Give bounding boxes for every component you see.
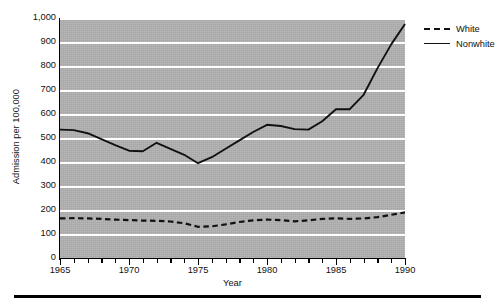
x-axis-tick (281, 258, 282, 263)
series-lines (60, 18, 405, 258)
x-axis-tick (170, 258, 171, 263)
y-axis-tick-label: 500 (2, 133, 56, 142)
x-axis-tick (198, 258, 199, 265)
x-axis-tick (364, 258, 365, 263)
chart-figure: 01002003004005006007008009001,000 196519… (0, 0, 495, 305)
x-axis-tick (115, 258, 116, 263)
series-line-nonwhite (60, 24, 405, 163)
x-axis-line (59, 258, 406, 259)
y-axis-tick-label: 300 (2, 181, 56, 190)
y-axis-tick-label: 0 (2, 253, 56, 262)
x-axis-tick (101, 258, 102, 263)
x-axis-tick-label: 1990 (383, 266, 427, 275)
x-axis-tick-label: 1965 (38, 266, 82, 275)
legend-swatch-solid-icon (424, 43, 450, 44)
x-axis-tick-label: 1985 (314, 266, 358, 275)
y-axis-tick-label: 1,000 (2, 13, 56, 22)
legend-label-white: White (456, 22, 480, 37)
x-axis-tick (350, 258, 351, 263)
x-axis-title: Year (0, 279, 465, 288)
x-axis-tick (226, 258, 227, 263)
y-axis-line (59, 18, 60, 260)
y-axis-tick-label: 900 (2, 37, 56, 46)
legend-item-nonwhite: Nonwhite (424, 37, 494, 52)
x-axis-tick (253, 258, 254, 263)
y-axis-tick-label: 400 (2, 157, 56, 166)
series-line-white (60, 212, 405, 226)
chart-legend: White Nonwhite (424, 22, 494, 52)
y-axis-tick-label: 100 (2, 229, 56, 238)
x-axis-tick (60, 258, 61, 265)
x-axis-tick (377, 258, 378, 263)
x-axis-tick (74, 258, 75, 263)
x-axis-tick (143, 258, 144, 263)
y-axis-tick-label: 700 (2, 85, 56, 94)
x-axis-tick (336, 258, 337, 265)
x-axis-tick (239, 258, 240, 263)
x-axis-tick (184, 258, 185, 263)
x-axis-tick (391, 258, 392, 263)
legend-swatch-dashed-icon (424, 28, 450, 30)
x-axis-tick (405, 258, 406, 265)
y-axis-tick-label: 800 (2, 61, 56, 70)
y-axis-title: Admission per 100,000 (12, 72, 21, 202)
x-axis-tick (322, 258, 323, 263)
x-axis-tick-label: 1975 (176, 266, 220, 275)
x-axis-tick (267, 258, 268, 265)
y-axis-tick-label: 200 (2, 205, 56, 214)
x-axis-tick (212, 258, 213, 263)
x-axis-tick (88, 258, 89, 263)
legend-label-nonwhite: Nonwhite (456, 37, 495, 52)
x-axis-tick (295, 258, 296, 263)
x-axis-tick (308, 258, 309, 263)
x-axis-tick (129, 258, 130, 265)
plot-area (60, 18, 405, 258)
y-axis-tick-label: 600 (2, 109, 56, 118)
x-axis-tick-label: 1980 (245, 266, 289, 275)
bottom-rule-divider (14, 295, 481, 298)
x-axis-tick (157, 258, 158, 263)
x-axis-tick-label: 1970 (107, 266, 151, 275)
legend-item-white: White (424, 22, 494, 37)
y-axis-tick-labels: 01002003004005006007008009001,000 (0, 0, 56, 305)
